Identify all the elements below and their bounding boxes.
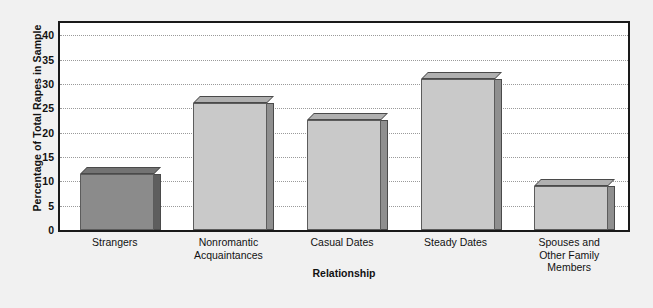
bar bbox=[193, 103, 267, 230]
bar-top-face bbox=[421, 72, 502, 79]
y-axis-tick-label: 20 bbox=[30, 127, 54, 139]
y-axis-tick-label: 40 bbox=[30, 29, 54, 41]
bar-front-face bbox=[80, 174, 154, 230]
y-axis-tick-label: 0 bbox=[30, 224, 54, 236]
bar bbox=[534, 186, 608, 230]
x-axis-tick-label: Casual Dates bbox=[287, 236, 397, 249]
bar-side-face bbox=[608, 186, 615, 230]
y-axis-tick-label: 10 bbox=[30, 175, 54, 187]
bar-side-face bbox=[267, 103, 274, 230]
gridline bbox=[60, 108, 628, 109]
x-axis-tick-label-line: Casual Dates bbox=[287, 236, 397, 249]
y-axis-tick-label: 15 bbox=[30, 151, 54, 163]
bar-front-face bbox=[307, 120, 381, 230]
x-axis-tick-label-line: Steady Dates bbox=[401, 236, 511, 249]
x-axis-tick-label-line: Other Family bbox=[514, 249, 624, 262]
x-axis-tick-label: NonromanticAcquaintances bbox=[174, 236, 284, 261]
gridline bbox=[60, 60, 628, 61]
x-axis-tick-label: Steady Dates bbox=[401, 236, 511, 249]
plot-inner bbox=[60, 23, 628, 230]
gridline bbox=[60, 35, 628, 36]
y-axis-tick-label: 25 bbox=[30, 102, 54, 114]
bar-side-face bbox=[154, 174, 161, 230]
bar-top-face bbox=[534, 179, 615, 186]
y-axis-tick-label: 5 bbox=[30, 200, 54, 212]
bar-top-face bbox=[80, 167, 161, 174]
x-axis-tick-label: Strangers bbox=[60, 236, 170, 249]
bar-side-face bbox=[495, 79, 502, 230]
bar-side-face bbox=[381, 120, 388, 230]
bar bbox=[80, 174, 154, 230]
x-axis-tick-label-line: Acquaintances bbox=[174, 249, 284, 262]
x-axis-tick-label-line: Nonromantic bbox=[174, 236, 284, 249]
bar bbox=[421, 79, 495, 230]
x-axis-tick-label-line: Spouses and bbox=[514, 236, 624, 249]
bar-top-face bbox=[307, 113, 388, 120]
x-axis-tick-label-line: Strangers bbox=[60, 236, 170, 249]
y-axis-tick-labels: 0510152025303540 bbox=[24, 21, 54, 228]
plot-area bbox=[58, 21, 630, 232]
x-axis-title: Relationship bbox=[58, 267, 630, 279]
bar bbox=[307, 120, 381, 230]
bar-top-face bbox=[193, 96, 274, 103]
bar-front-face bbox=[421, 79, 495, 230]
chart-figure: Percentage of Total Rapes in Sample 0510… bbox=[0, 0, 653, 308]
gridline bbox=[60, 84, 628, 85]
y-axis-tick-label: 35 bbox=[30, 54, 54, 66]
bar-front-face bbox=[534, 186, 608, 230]
y-axis-tick-label: 30 bbox=[30, 78, 54, 90]
bar-front-face bbox=[193, 103, 267, 230]
